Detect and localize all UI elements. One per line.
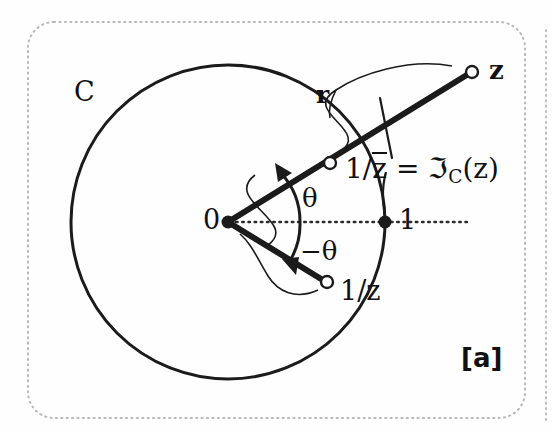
point-label-one: 1	[399, 206, 416, 233]
point-z-marker	[466, 66, 478, 78]
point-label-inverse-z: 1/z	[340, 277, 381, 304]
angle-arrow-theta	[275, 163, 292, 182]
point-one-marker	[379, 216, 392, 229]
point-origin-marker	[222, 216, 235, 229]
figure-panel-a: C r z 1/z = ℑC(z) 1 0 θ −θ 1/z [a]	[0, 0, 552, 432]
panel-tag: [a]	[461, 345, 502, 371]
inversion-map-subscript: C	[448, 166, 462, 187]
point-inverse-conjugate-marker	[324, 157, 336, 169]
angle-label-theta: θ	[302, 185, 318, 211]
point-label-z: z	[489, 57, 504, 83]
radius-label-r: r	[316, 82, 329, 107]
angle-label-negative-theta: −θ	[300, 238, 337, 264]
circle-label-C: C	[74, 78, 95, 105]
point-label-origin: 0	[203, 206, 220, 233]
panel-border	[28, 22, 525, 418]
inversion-map-argument: (z)	[462, 152, 499, 185]
angle-arrow-negative-theta	[282, 257, 299, 275]
z-bar-glyph: z	[372, 152, 387, 183]
inv-conj-prefix: 1/	[345, 152, 372, 185]
inversion-map-glyph: ℑ	[428, 152, 448, 185]
ray-to-z	[228, 73, 470, 222]
inv-conj-equals: =	[396, 152, 419, 185]
point-inverse-z-marker	[321, 276, 333, 288]
point-label-inverse-conjugate: 1/z = ℑC(z)	[345, 152, 499, 187]
